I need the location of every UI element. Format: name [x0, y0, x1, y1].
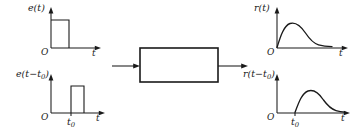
- label-input-shifted-signal-main: e(t: [16, 68, 29, 79]
- pulse-input-shifted: [71, 86, 84, 113]
- input-arrow-head: [133, 63, 140, 68]
- plot-input-shifted: [49, 74, 105, 116]
- y-axis-arrowhead-output-shifted: [275, 74, 280, 80]
- label-input-shifted-signal-tail: ): [45, 68, 49, 79]
- system-block-group: [112, 48, 248, 82]
- plot-output-unshifted: [275, 7, 348, 50]
- label-output-shifted-signal: r(t−t0): [243, 69, 275, 79]
- label-output-shifted-signal-minus: −: [255, 68, 263, 79]
- response-curve-output-unshifted: [277, 23, 332, 47]
- label-input-shifted-axis: t: [96, 114, 100, 123]
- pulse-input-unshifted: [51, 20, 69, 48]
- label-input-shifted-signal-minus: −: [29, 68, 37, 79]
- label-output-unshifted-axis: t: [339, 49, 343, 58]
- label-input-shifted-origin: O: [41, 113, 48, 122]
- label-output-shifted-tick-sub: 0: [295, 121, 299, 129]
- label-output-shifted-tick: t0: [291, 117, 299, 127]
- label-output-shifted-signal-tail: ): [271, 68, 275, 79]
- y-axis-arrowhead-input-shifted: [49, 74, 54, 80]
- label-input-shifted-tick: t0: [67, 117, 75, 127]
- label-input-unshifted-axis: t: [92, 49, 96, 58]
- figure-canvas: [0, 0, 354, 134]
- system-block-rect: [140, 48, 218, 82]
- plot-input-unshifted: [49, 7, 101, 50]
- label-output-shifted-origin: O: [267, 113, 274, 122]
- label-input-shifted-signal: e(t−t0): [16, 69, 49, 79]
- label-input-shifted-signal-sub: 0: [41, 73, 45, 81]
- label-output-unshifted-origin: O: [267, 48, 274, 57]
- y-axis-arrowhead-input-unshifted: [49, 7, 54, 13]
- label-input-shifted-tick-sub: 0: [71, 121, 75, 129]
- response-curve-output-shifted: [295, 91, 345, 113]
- plot-output-shifted: [275, 74, 350, 116]
- label-output-shifted-axis: t: [341, 114, 345, 123]
- label-input-unshifted-signal: e(t): [28, 3, 45, 13]
- y-axis-arrowhead-output-unshifted: [275, 7, 280, 13]
- label-output-shifted-signal-sub: 0: [267, 73, 271, 81]
- time-invariance-figure: e(t) O t e(t−t0) O t0 t r(t) O t r(t−t0)…: [0, 0, 354, 134]
- label-input-unshifted-origin: O: [41, 48, 48, 57]
- label-output-shifted-signal-main: r(t: [243, 68, 255, 79]
- label-output-unshifted-signal: r(t): [254, 3, 270, 13]
